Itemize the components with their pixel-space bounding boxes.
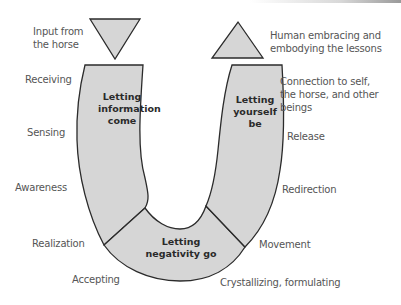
stage-label-realization: Realization: [32, 237, 85, 250]
stage-label-accepting: Accepting: [72, 273, 120, 286]
segment-bottom-label: Letting negativity go: [145, 236, 217, 260]
segment-right-label: Letting yourself be: [230, 94, 280, 130]
output-label: Human embracing and embodying the lesson…: [270, 29, 382, 55]
stage-label-awareness: Awareness: [15, 181, 67, 194]
stage-label-movement: Movement: [259, 238, 310, 251]
stage-label-receiving: Receiving: [25, 73, 72, 86]
input-label: Input from the horse: [33, 25, 83, 51]
stage-label-crystallizing: Crystallizing, formulating: [220, 276, 340, 289]
stage-label-release: Release: [287, 130, 325, 143]
stage-label-connection: Connection to self, the horse, and other…: [280, 75, 379, 114]
output-triangle: [212, 22, 263, 58]
stage-label-sensing: Sensing: [27, 126, 65, 139]
segment-left-label: Letting information come: [98, 91, 146, 127]
input-triangle: [90, 19, 140, 59]
stage-label-redirection: Redirection: [282, 183, 336, 196]
